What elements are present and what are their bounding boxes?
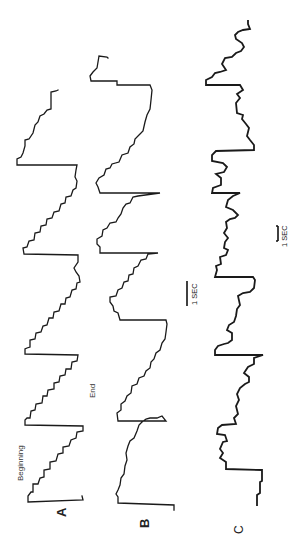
annotation-end: End — [88, 384, 97, 398]
panel-label-b: B — [137, 519, 152, 528]
trace-c — [206, 21, 263, 505]
annotation-beginning: Beginning — [16, 445, 25, 481]
figure-staircase-traces — [0, 0, 289, 557]
trace-a — [17, 90, 83, 502]
trace-b — [90, 56, 174, 510]
panel-label-a: A — [54, 508, 69, 517]
scale-label-ab: 1 SEC — [190, 283, 199, 305]
panel-label-c: C — [232, 525, 246, 534]
scale-label-c: 1 SEC — [280, 225, 289, 247]
